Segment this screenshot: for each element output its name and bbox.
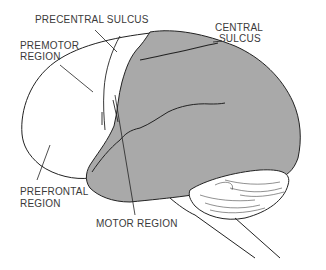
label-motor-region: MOTOR REGION <box>96 218 178 229</box>
label-precentral-sulcus: PRECENTRAL SULCUS <box>35 14 149 25</box>
label-central-sulcus-line1: CENTRAL <box>215 22 263 33</box>
label-premotor-line2: REGION <box>20 51 61 62</box>
label-premotor-line1: PREMOTOR <box>20 40 79 51</box>
label-central-sulcus-line2: SULCUS <box>219 33 261 44</box>
label-prefrontal-line1: PREFRONTAL <box>20 186 89 197</box>
label-prefrontal-line2: REGION <box>20 198 61 209</box>
brainstem-outline-2 <box>235 218 280 258</box>
